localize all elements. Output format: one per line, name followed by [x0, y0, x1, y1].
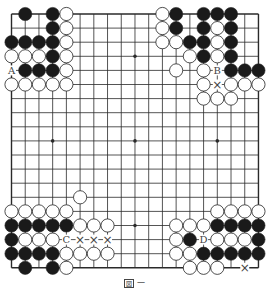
black-stone [5, 219, 18, 232]
white-stone [46, 205, 59, 218]
black-stone [5, 36, 18, 49]
white-stone [211, 36, 224, 49]
white-stone [183, 261, 196, 274]
star-point [133, 139, 137, 143]
black-stone [238, 219, 251, 232]
x-mark-icon: × [103, 233, 113, 247]
black-stone [211, 247, 224, 260]
black-stone [32, 64, 45, 77]
black-stone [197, 7, 210, 20]
black-stone [183, 36, 196, 49]
white-stone [60, 50, 73, 63]
figure-caption: 図 一 [124, 279, 145, 288]
white-stone [19, 205, 32, 218]
black-stone [224, 247, 237, 260]
white-stone [156, 7, 169, 20]
white-stone [101, 247, 114, 260]
x-mark-icon: × [89, 233, 99, 247]
black-stone [252, 233, 265, 246]
white-stone [74, 191, 87, 204]
white-stone [60, 261, 73, 274]
black-stone [46, 50, 59, 63]
black-stone [197, 247, 210, 260]
black-stone [46, 7, 59, 20]
white-stone [156, 22, 169, 35]
black-stone [46, 36, 59, 49]
black-stone [46, 64, 59, 77]
black-stone [32, 247, 45, 260]
black-stone [19, 247, 32, 260]
white-stone [19, 78, 32, 91]
white-stone [252, 78, 265, 91]
black-stone [211, 219, 224, 232]
white-stone [211, 22, 224, 35]
white-stone [60, 205, 73, 218]
white-stone [170, 36, 183, 49]
white-stone [170, 233, 183, 246]
white-stone [224, 78, 237, 91]
white-stone [60, 247, 73, 260]
star-point [216, 139, 220, 143]
black-stone [238, 64, 251, 77]
star-point [133, 224, 137, 228]
white-stone [170, 247, 183, 260]
black-stone [211, 7, 224, 20]
black-stone [224, 50, 237, 63]
black-stone [46, 219, 59, 232]
black-stone [19, 64, 32, 77]
white-stone [224, 92, 237, 105]
black-stone [252, 64, 265, 77]
white-stone [46, 78, 59, 91]
black-stone [224, 219, 237, 232]
white-stone [5, 50, 18, 63]
black-stone [197, 36, 210, 49]
white-stone [224, 205, 237, 218]
figure-caption-number: 一 [137, 280, 145, 288]
white-stone [197, 92, 210, 105]
white-stone [32, 78, 45, 91]
white-stone [211, 92, 224, 105]
white-stone [60, 78, 73, 91]
white-stone [156, 36, 169, 49]
white-stone [60, 7, 73, 20]
white-stone [32, 205, 45, 218]
white-stone [60, 64, 73, 77]
point-label-c: C [63, 234, 71, 245]
black-stone [5, 233, 18, 246]
go-board: ABCD××××× [0, 0, 269, 292]
figure-caption-box: 図 [124, 279, 134, 288]
black-stone [252, 247, 265, 260]
white-stone [101, 219, 114, 232]
black-stone [19, 7, 32, 20]
white-stone [60, 22, 73, 35]
black-stone [183, 233, 196, 246]
go-board-diagram: ABCD××××× [0, 0, 269, 292]
black-stone [19, 219, 32, 232]
black-stone [170, 7, 183, 20]
black-stone [19, 261, 32, 274]
black-stone [224, 36, 237, 49]
black-stone [19, 36, 32, 49]
white-stone [170, 64, 183, 77]
white-stone [87, 219, 100, 232]
white-stone [197, 261, 210, 274]
black-stone [46, 22, 59, 35]
white-stone [224, 233, 237, 246]
white-stone [74, 219, 87, 232]
black-stone [46, 261, 59, 274]
white-stone [46, 233, 59, 246]
black-stone [224, 7, 237, 20]
black-stone [46, 247, 59, 260]
black-stone [197, 22, 210, 35]
white-stone [87, 247, 100, 260]
black-stone [5, 247, 18, 260]
black-stone [252, 219, 265, 232]
white-stone [60, 36, 73, 49]
x-mark-icon: × [75, 233, 85, 247]
white-stone [32, 233, 45, 246]
black-stone [238, 247, 251, 260]
black-stone [224, 22, 237, 35]
white-stone [197, 219, 210, 232]
white-stone [183, 247, 196, 260]
black-stone [170, 22, 183, 35]
